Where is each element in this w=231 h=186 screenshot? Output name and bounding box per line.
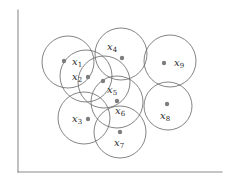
data-point-x5: [101, 79, 105, 83]
data-point-x7: [118, 130, 122, 134]
point-label-subscript: 2: [78, 76, 82, 84]
diagram-canvas: x1x2x3x4x5x6x7x8x9: [0, 0, 231, 186]
data-point-x8: [165, 102, 169, 106]
point-label-subscript: 4: [113, 46, 118, 54]
data-point-x1: [62, 59, 66, 63]
point-label-x5: x5: [107, 84, 117, 97]
point-label-x1: x1: [72, 56, 82, 69]
data-point-x6: [115, 99, 119, 103]
point-labels-group: x1x2x3x4x5x6x7x8x9: [72, 41, 184, 150]
point-label-subscript: 1: [78, 61, 82, 69]
point-label-x8: x8: [160, 110, 170, 123]
data-point-x4: [120, 56, 124, 60]
point-label-subscript: 8: [166, 115, 170, 123]
point-label-subscript: 9: [180, 62, 184, 70]
neighborhood-circle-x4: [95, 28, 147, 80]
neighborhood-circle-x1: [42, 36, 94, 88]
point-label-x7: x7: [114, 137, 124, 150]
point-label-x9: x9: [174, 57, 184, 70]
data-point-x2: [86, 75, 90, 79]
point-label-x3: x3: [72, 113, 82, 126]
figure-container: x1x2x3x4x5x6x7x8x9: [0, 0, 231, 186]
point-label-x2: x2: [72, 71, 82, 84]
point-label-subscript: 5: [113, 89, 117, 97]
point-label-x6: x6: [115, 105, 126, 118]
point-label-subscript: 6: [121, 110, 126, 118]
point-label-subscript: 3: [78, 118, 82, 126]
neighborhood-circle-x3: [58, 92, 110, 144]
neighborhood-circle-x2: [60, 50, 112, 102]
point-label-subscript: 7: [120, 142, 124, 150]
data-point-x9: [162, 61, 166, 65]
point-label-x4: x4: [107, 41, 118, 54]
neighborhood-circle-x9: [144, 35, 196, 87]
data-point-x3: [86, 117, 90, 121]
